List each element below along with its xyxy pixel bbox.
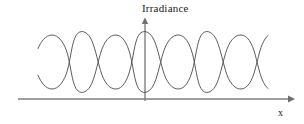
y-axis-label: Irradiance: [142, 2, 189, 15]
wave-curves-group: [38, 32, 268, 93]
wave-curve-2: [38, 35, 268, 92]
x-axis-arrowhead-icon: [288, 96, 295, 103]
irradiance-interference-figure: Irradiance x: [0, 0, 304, 124]
y-axis-arrowhead-icon: [142, 18, 148, 25]
plot-canvas: [0, 0, 304, 124]
x-axis-label: x: [278, 107, 283, 119]
axes-group: [18, 18, 295, 103]
wave-curve-1: [38, 32, 268, 89]
